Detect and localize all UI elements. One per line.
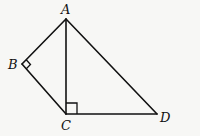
segment-ad	[66, 19, 157, 114]
label-d: D	[159, 110, 171, 125]
geometry-diagram: A B C D	[0, 0, 200, 136]
label-b: B	[7, 57, 18, 72]
label-a: A	[60, 2, 70, 17]
right-angle-marker-b	[26, 60, 30, 69]
right-angle-marker-c	[66, 103, 77, 114]
label-c: C	[61, 118, 71, 133]
segment-bc	[22, 64, 66, 114]
segment-ab	[22, 19, 66, 64]
